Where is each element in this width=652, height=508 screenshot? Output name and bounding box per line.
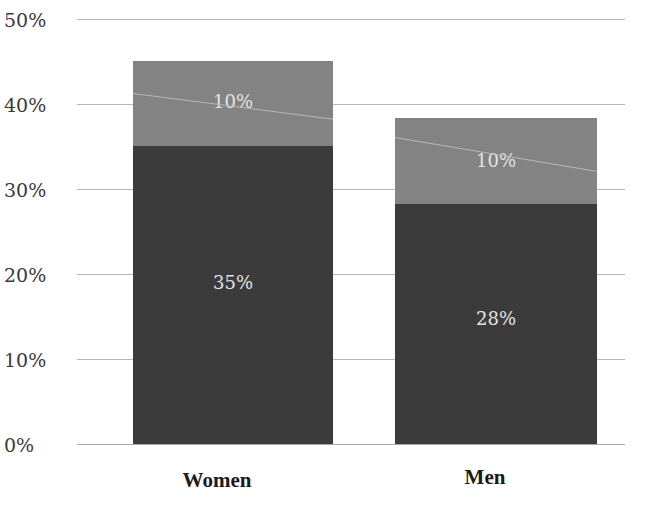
bar-segment-top: 10% <box>395 118 597 204</box>
x-axis-baseline <box>77 444 625 445</box>
y-tick-label: 10% <box>4 351 46 370</box>
segment-value-label: 28% <box>395 308 597 329</box>
bar-segment-bottom: 35% <box>133 146 333 444</box>
y-tick-label: 0% <box>4 436 34 455</box>
y-tick-label: 50% <box>4 11 46 30</box>
y-tick-label: 40% <box>4 96 46 115</box>
bar-segment-top: 10% <box>133 61 333 146</box>
segment-value-label: 10% <box>133 91 333 112</box>
y-tick-label: 30% <box>4 181 46 200</box>
x-category-label: Men <box>420 465 550 490</box>
segment-value-label: 35% <box>133 272 333 293</box>
bar-men: 10% 28% <box>395 118 597 444</box>
bar-segment-bottom: 28% <box>395 204 597 444</box>
gridline <box>77 19 625 20</box>
x-category-label: Women <box>133 468 301 493</box>
bar-women: 10% 35% <box>133 61 333 444</box>
y-tick-label: 20% <box>4 266 46 285</box>
